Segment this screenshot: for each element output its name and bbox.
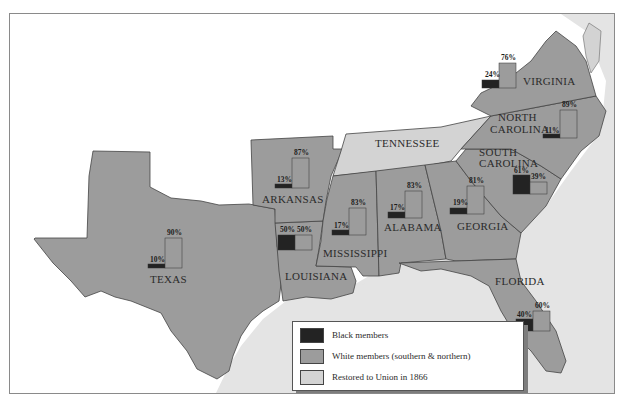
svg-text:17%: 17% [390,203,405,212]
legend-swatch-black [300,328,324,343]
svg-text:GEORGIA: GEORGIA [457,220,509,232]
legend-item-black: Black members [300,328,388,342]
svg-text:ALABAMA: ALABAMA [384,221,442,233]
svg-text:NORTH: NORTH [498,111,537,123]
svg-text:83%: 83% [407,181,422,190]
svg-text:87%: 87% [294,148,309,157]
svg-text:19%: 19% [453,198,468,207]
svg-text:17%: 17% [334,221,349,230]
svg-text:LOUISIANA: LOUISIANA [285,270,348,282]
svg-text:90%: 90% [167,228,182,237]
svg-text:50%: 50% [280,225,295,234]
svg-text:89%: 89% [562,100,577,109]
svg-text:VIRGINIA: VIRGINIA [523,75,576,87]
svg-text:13%: 13% [277,175,292,184]
legend-item-white: White members (southern & northern) [300,349,470,363]
svg-text:39%: 39% [531,172,546,181]
legend-swatch-restored [300,370,324,385]
legend-item-restored: Restored to Union in 1866 [300,370,428,384]
svg-text:MISSISSIPPI: MISSISSIPPI [323,247,387,259]
svg-text:CAROLINA: CAROLINA [490,123,549,135]
legend-swatch-white [300,349,324,364]
map-frame: 24% 76% VIRGINIA 11% 89% NORTH CAROLINA … [9,13,615,394]
svg-text:50%: 50% [297,225,312,234]
svg-text:ARKANSAS: ARKANSAS [262,193,324,205]
svg-text:FLORIDA: FLORIDA [495,275,545,287]
svg-text:10%: 10% [150,255,165,264]
svg-text:TEXAS: TEXAS [150,273,187,285]
label-tennessee: TENNESSEE [375,137,439,149]
legend: Black members White members (southern & … [292,321,524,391]
svg-text:76%: 76% [501,53,516,62]
svg-text:60%: 60% [535,301,550,310]
svg-text:83%: 83% [351,198,366,207]
svg-text:40%: 40% [517,310,532,319]
svg-text:81%: 81% [469,176,484,185]
svg-text:24%: 24% [485,70,500,79]
svg-text:CAROLINA: CAROLINA [479,157,538,169]
